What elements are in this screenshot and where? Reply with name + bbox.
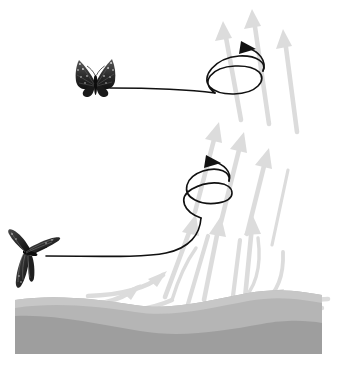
thermal-soaring-diagram bbox=[0, 0, 337, 372]
diagram-canvas bbox=[0, 0, 337, 372]
